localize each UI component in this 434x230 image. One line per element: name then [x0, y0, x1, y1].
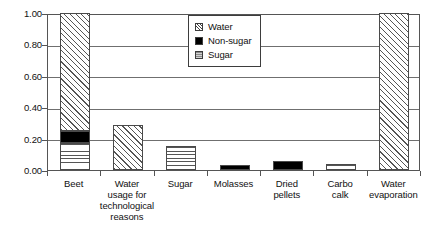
bar-group[interactable] [113, 13, 143, 170]
stacked-bar-chart: 1.000.800.600.400.200.00 BeetWaterusage … [0, 0, 434, 230]
bar-segment-sugar[interactable] [326, 164, 356, 170]
legend-item[interactable]: Sugar [195, 48, 251, 62]
y-tick-mark [42, 108, 47, 109]
x-tick-mark [313, 171, 314, 176]
bar-segment-sugar[interactable] [166, 146, 196, 170]
black-swatch-icon [195, 37, 203, 45]
x-tick-mark [154, 171, 155, 176]
y-tick-label: 0.60 [2, 72, 42, 82]
x-tick-mark [47, 171, 48, 176]
x-category-label-line: evaporation [357, 189, 430, 200]
legend-item[interactable]: Water [195, 20, 251, 34]
bar-segment-non-sugar[interactable] [60, 131, 90, 144]
bar-segment-sugar[interactable] [60, 143, 90, 170]
legend-item[interactable]: Non-sugar [195, 34, 251, 48]
y-axis: 1.000.800.600.400.200.00 [0, 0, 42, 230]
legend-item-label: Water [208, 22, 232, 32]
legend-item-label: Non-sugar [208, 36, 251, 46]
gray-swatch-icon [195, 51, 203, 59]
hatch-swatch-icon [195, 23, 203, 31]
legend-item-label: Sugar [208, 50, 233, 60]
bar-group[interactable] [379, 13, 409, 170]
x-category-label-line: reasons [90, 211, 163, 222]
bar-segment-water[interactable] [379, 13, 409, 170]
y-tick-label: 0.80 [2, 40, 42, 50]
y-tick-mark [42, 140, 47, 141]
bar-segment-water[interactable] [60, 13, 90, 131]
y-tick-mark [42, 171, 47, 172]
y-tick-label: 1.00 [2, 9, 42, 19]
x-category-label-line: usage for [90, 189, 163, 200]
chart-legend: WaterNon-sugarSugar [188, 15, 261, 67]
bar-segment-non-sugar[interactable] [220, 165, 250, 170]
bar-segment-water[interactable] [113, 125, 143, 170]
y-tick-label: 0.00 [2, 166, 42, 176]
x-category-label: Waterevaporation [357, 178, 430, 200]
bar-segment-non-sugar[interactable] [273, 161, 303, 170]
y-tick-label: 0.40 [2, 103, 42, 113]
bar-group[interactable] [273, 13, 303, 170]
x-tick-mark [420, 171, 421, 176]
y-tick-label: 0.20 [2, 135, 42, 145]
bar-group[interactable] [326, 13, 356, 170]
x-category-label-line: technological [90, 200, 163, 211]
x-tick-mark [367, 171, 368, 176]
x-tick-mark [207, 171, 208, 176]
x-tick-mark [260, 171, 261, 176]
y-tick-mark [42, 45, 47, 46]
bar-group[interactable] [60, 13, 90, 170]
y-tick-mark [42, 77, 47, 78]
y-tick-mark [42, 14, 47, 15]
x-tick-mark [100, 171, 101, 176]
x-category-label-line: Water [357, 178, 430, 189]
